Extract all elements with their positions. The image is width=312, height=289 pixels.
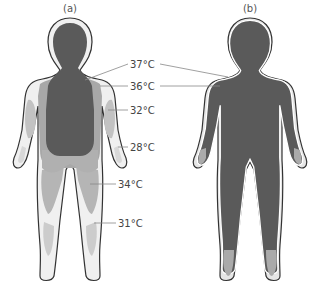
core-37-zone <box>46 23 94 156</box>
label-32c: 32°C <box>130 105 155 116</box>
label-37c: 37°C <box>130 59 155 70</box>
label-36c: 36°C <box>130 81 155 92</box>
body-temperature-diagram: (a) (b) 37°C <box>0 0 312 289</box>
core-37-zone-b <box>197 20 303 273</box>
label-31c: 31°C <box>118 218 143 229</box>
label-34c: 34°C <box>118 179 143 190</box>
panel-b: (b) <box>193 3 307 281</box>
panel-b-label: (b) <box>243 3 257 14</box>
label-28c: 28°C <box>130 142 155 153</box>
panel-a: (a) <box>13 3 127 281</box>
hands-feet-cooler <box>198 148 302 276</box>
panel-a-label: (a) <box>63 3 77 14</box>
